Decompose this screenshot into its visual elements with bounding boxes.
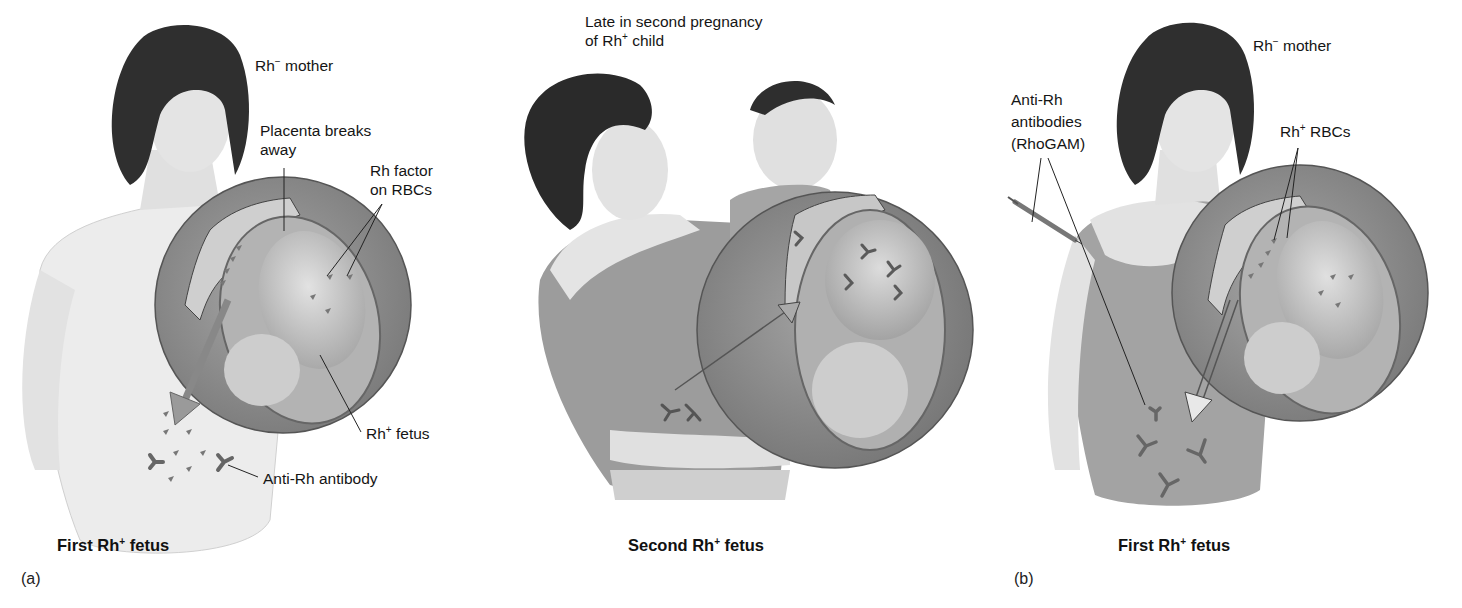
label-rh-negative-mother: Rh− mother bbox=[1253, 36, 1331, 55]
syringe-icon bbox=[1008, 197, 1082, 244]
label-anti-rh-antibodies-rhogam: Anti-Rh antibodies (RhoGAM) bbox=[1011, 89, 1085, 155]
caption-second-rh-positive-fetus: Second Rh+ fetus bbox=[628, 536, 764, 555]
label-rh-negative-mother: Rh− mother bbox=[255, 56, 333, 75]
illustration-mother-first-pregnancy bbox=[0, 0, 490, 608]
label-late-second-pregnancy: Late in second pregnancy of Rh+ child bbox=[585, 12, 763, 50]
panel-b-rhogam: Rh− mother Anti-Rh antibodies (RhoGAM) R… bbox=[980, 0, 1462, 608]
label-placenta-breaks-away: Placenta breaks away bbox=[260, 121, 371, 159]
panel-letter-b: (b) bbox=[1014, 570, 1034, 588]
label-rh-positive-fetus: Rh+ fetus bbox=[366, 424, 430, 443]
caption-first-rh-positive-fetus: First Rh+ fetus bbox=[1118, 536, 1230, 555]
panel-second-fetus: Late in second pregnancy of Rh+ child Se… bbox=[490, 0, 980, 608]
label-rh-factor-on-rbcs: Rh factor on RBCs bbox=[370, 161, 433, 199]
label-rh-positive-rbcs: Rh+ RBCs bbox=[1280, 122, 1350, 141]
panel-letter-a: (a) bbox=[21, 570, 41, 588]
caption-first-rh-positive-fetus: First Rh+ fetus bbox=[57, 536, 169, 555]
panel-a-first-fetus: Rh− mother Placenta breaks away Rh facto… bbox=[0, 0, 490, 608]
label-anti-rh-antibody: Anti-Rh antibody bbox=[263, 469, 378, 488]
illustration-mother-with-child bbox=[490, 0, 980, 608]
